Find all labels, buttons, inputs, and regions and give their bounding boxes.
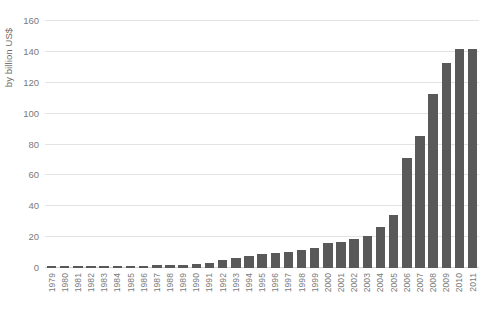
bar[interactable]	[363, 236, 372, 268]
bar[interactable]	[336, 242, 345, 268]
bars	[45, 21, 479, 268]
y-axis-tick-label: 80	[28, 138, 39, 149]
bar[interactable]	[468, 49, 477, 268]
bar[interactable]	[178, 265, 187, 268]
bar[interactable]	[218, 260, 227, 268]
bar[interactable]	[455, 49, 464, 268]
bar[interactable]	[99, 266, 108, 268]
x-axis-tick-label: 2001	[336, 273, 346, 292]
bar-slot	[361, 21, 374, 268]
y-axis-title-label: by billion US$	[4, 28, 15, 88]
bar-slot	[466, 21, 479, 268]
x-axis-tick-label: 1998	[297, 273, 307, 292]
bar[interactable]	[205, 263, 214, 268]
bar-slot	[334, 21, 347, 268]
bar[interactable]	[165, 265, 174, 268]
bar[interactable]	[442, 63, 451, 268]
bar-slot	[256, 21, 269, 268]
bar[interactable]	[86, 266, 95, 268]
bar[interactable]	[271, 253, 280, 268]
bar-slot	[242, 21, 255, 268]
bar-slot	[295, 21, 308, 268]
x-axis-tick: 2006	[400, 271, 413, 311]
bar[interactable]	[113, 266, 122, 268]
x-axis-tick-label: 1992	[218, 273, 228, 292]
y-axis-tick-label: 140	[23, 45, 39, 56]
bar-slot	[427, 21, 440, 268]
x-axis-tick-label: 1990	[191, 273, 201, 292]
x-axis-tick-label: 2011	[468, 273, 478, 292]
y-axis-tick-label: 0	[34, 262, 39, 273]
bar[interactable]	[415, 136, 424, 268]
bar[interactable]	[389, 215, 398, 268]
x-axis-tick: 1984	[111, 271, 124, 311]
x-axis-tick-label: 2008	[428, 273, 438, 292]
x-axis-tick: 2010	[453, 271, 466, 311]
x-axis-tick-label: 1980	[60, 273, 70, 292]
x-axis-tick: 2011	[466, 271, 479, 311]
bar-slot	[163, 21, 176, 268]
x-axis-tick-label: 1995	[257, 273, 267, 292]
bar-slot	[203, 21, 216, 268]
x-axis-tick: 1986	[137, 271, 150, 311]
bar[interactable]	[402, 158, 411, 268]
x-axis-tick: 1982	[84, 271, 97, 311]
bar-slot	[440, 21, 453, 268]
x-axis-tick-label: 2002	[349, 273, 359, 292]
x-axis-tick-label: 1988	[165, 273, 175, 292]
x-axis-tick: 2001	[334, 271, 347, 311]
x-axis-tick: 2005	[387, 271, 400, 311]
x-axis-tick: 1985	[124, 271, 137, 311]
bar-slot	[98, 21, 111, 268]
bar[interactable]	[257, 254, 266, 268]
bar[interactable]	[139, 266, 148, 268]
bar[interactable]	[323, 243, 332, 268]
x-axis-tick-label: 1987	[152, 273, 162, 292]
bar[interactable]	[126, 266, 135, 268]
bar-slot	[348, 21, 361, 268]
x-axis-tick-label: 1994	[244, 273, 254, 292]
y-axis-tick-label: 160	[23, 15, 39, 26]
x-axis-tick: 1991	[203, 271, 216, 311]
plot-area: 020406080100120140160	[45, 21, 479, 268]
y-axis-tick-label: 120	[23, 76, 39, 87]
bar[interactable]	[297, 250, 306, 268]
x-axis-tick: 1997	[282, 271, 295, 311]
bar-slot	[269, 21, 282, 268]
y-axis-tick-label: 100	[23, 107, 39, 118]
x-axis-tick-label: 1989	[178, 273, 188, 292]
bar[interactable]	[310, 248, 319, 268]
x-axis-tick: 1990	[190, 271, 203, 311]
x-axis-tick: 1996	[269, 271, 282, 311]
x-axis-tick: 2008	[427, 271, 440, 311]
bar[interactable]	[47, 266, 56, 268]
x-axis-tick: 1988	[163, 271, 176, 311]
x-axis-tick: 1980	[58, 271, 71, 311]
bar[interactable]	[284, 252, 293, 268]
bar-chart: by billion US$ 020406080100120140160 197…	[0, 0, 483, 311]
bar[interactable]	[192, 264, 201, 268]
x-axis-tick-label: 2000	[323, 273, 333, 292]
bar[interactable]	[349, 239, 358, 268]
x-axis-tick-label: 2006	[402, 273, 412, 292]
bar[interactable]	[231, 258, 240, 268]
bar[interactable]	[73, 266, 82, 268]
x-axis-tick: 1993	[229, 271, 242, 311]
bar[interactable]	[60, 266, 69, 268]
bar[interactable]	[152, 265, 161, 268]
x-axis-tick-label: 1999	[310, 273, 320, 292]
x-axis-tick: 1998	[295, 271, 308, 311]
x-axis-tick: 1981	[71, 271, 84, 311]
bar-slot	[150, 21, 163, 268]
x-axis-tick-label: 1982	[86, 273, 96, 292]
x-axis-tick: 1987	[150, 271, 163, 311]
bar[interactable]	[428, 94, 437, 268]
x-axis-tick-labels: 1979198019811982198319841985198619871988…	[45, 271, 479, 311]
x-axis-tick: 1992	[216, 271, 229, 311]
y-axis-title: by billion US$	[0, 0, 18, 270]
bar[interactable]	[376, 227, 385, 268]
bar-slot	[216, 21, 229, 268]
bar-slot	[177, 21, 190, 268]
x-axis-tick: 1979	[45, 271, 58, 311]
bar[interactable]	[244, 256, 253, 268]
